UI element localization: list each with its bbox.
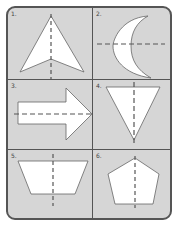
pentagon-shape	[93, 150, 172, 220]
cell-6: 6.	[93, 150, 172, 220]
cell-3: 3.	[8, 80, 92, 149]
worksheet-frame: 1. 2. 3. 4. 5.	[6, 6, 172, 220]
arrow-right-shape	[8, 80, 92, 149]
crescent-shape	[93, 8, 172, 79]
arrowhead-shape	[8, 8, 92, 79]
cell-1: 1.	[8, 8, 92, 79]
inverted-triangle-shape	[93, 80, 172, 149]
cell-5: 5.	[8, 150, 92, 220]
cell-4: 4.	[93, 80, 172, 149]
trapezoid-shape	[8, 150, 92, 220]
cell-2: 2.	[93, 8, 172, 79]
